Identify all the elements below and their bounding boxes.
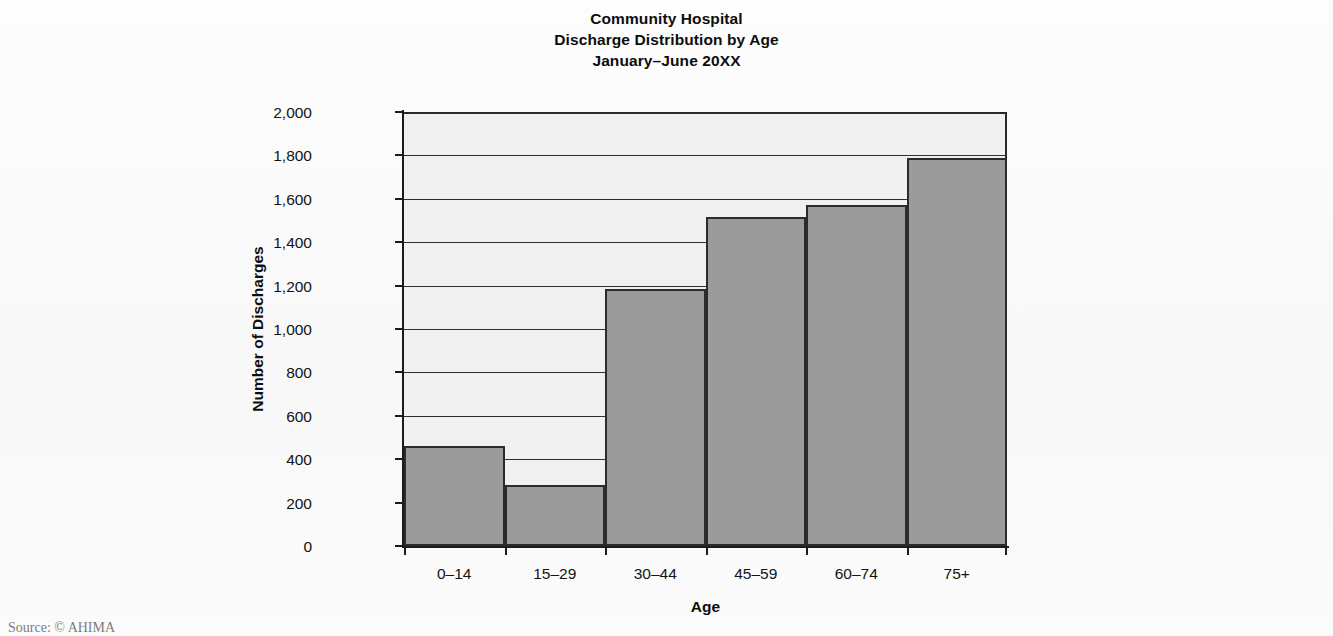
gridline bbox=[404, 155, 1007, 156]
y-axis-tick-label: 1,400 bbox=[192, 235, 312, 251]
y-axis-tick-label: 800 bbox=[192, 365, 312, 381]
bar-60-74 bbox=[806, 205, 907, 546]
bar-15-29 bbox=[505, 485, 606, 546]
x-axis-tick bbox=[907, 546, 909, 555]
x-axis-category-label: 0–14 bbox=[404, 565, 505, 583]
bar-30-44 bbox=[605, 289, 706, 546]
x-axis-category-label: 75+ bbox=[907, 565, 1008, 583]
x-axis-category-label: 45–59 bbox=[706, 565, 807, 583]
x-axis-title: Age bbox=[404, 598, 1007, 616]
chart-title: Community Hospital Discharge Distributio… bbox=[0, 8, 1333, 71]
y-axis-tick-label: 400 bbox=[192, 452, 312, 468]
x-axis-tick bbox=[1005, 546, 1007, 555]
x-axis-tick bbox=[706, 546, 708, 555]
x-axis-category-label: 60–74 bbox=[806, 565, 907, 583]
y-axis-tick-label: 2,000 bbox=[192, 105, 312, 121]
y-axis-tick-label: 600 bbox=[192, 409, 312, 425]
y-axis-tick-label: 1,000 bbox=[192, 322, 312, 338]
chart-title-line-2: Discharge Distribution by Age bbox=[0, 29, 1333, 50]
x-axis-category-label: 15–29 bbox=[505, 565, 606, 583]
y-axis-tick-label: 1,800 bbox=[192, 148, 312, 164]
source-note: Source: © AHIMA bbox=[8, 620, 115, 636]
chart-title-line-1: Community Hospital bbox=[0, 8, 1333, 29]
x-axis-category-label: 30–44 bbox=[605, 565, 706, 583]
y-axis-tick-label: 0 bbox=[192, 539, 312, 555]
x-axis-tick bbox=[806, 546, 808, 555]
bar-45-59 bbox=[706, 217, 807, 546]
y-axis-tick-label: 1,600 bbox=[192, 192, 312, 208]
bar-75+ bbox=[907, 158, 1008, 546]
x-axis-tick bbox=[404, 546, 406, 555]
x-axis-tick bbox=[605, 546, 607, 555]
y-axis-tick-label: 1,200 bbox=[192, 279, 312, 295]
chart-title-line-3: January–June 20XX bbox=[0, 50, 1333, 71]
x-axis-tick bbox=[505, 546, 507, 555]
plot-area bbox=[404, 112, 1007, 546]
plot-top-border bbox=[404, 112, 1007, 114]
bar-0-14 bbox=[404, 446, 505, 546]
y-axis-tick-label: 200 bbox=[192, 496, 312, 512]
